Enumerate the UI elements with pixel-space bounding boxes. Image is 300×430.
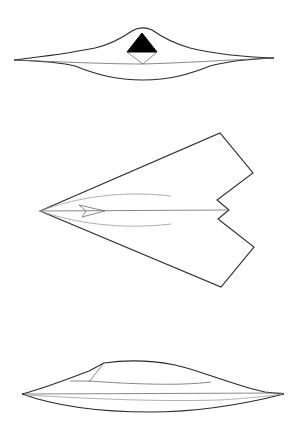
three-view-drawing xyxy=(0,0,300,430)
side-view xyxy=(0,0,300,430)
side-view-canopy xyxy=(70,364,211,384)
side-view-outline xyxy=(22,361,284,412)
